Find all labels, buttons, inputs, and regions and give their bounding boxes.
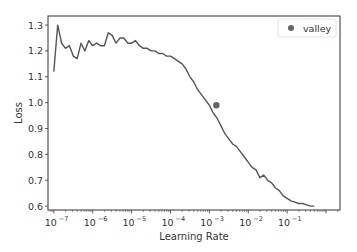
y-axis: 0.60.70.80.91.01.11.21.3	[28, 20, 48, 212]
valley-marker	[213, 102, 219, 108]
loss-curve	[54, 25, 315, 206]
x-tick-exponent: −2	[253, 215, 263, 223]
x-tick-exponent: −7	[59, 215, 69, 223]
x-tick-exponent: −6	[98, 215, 108, 223]
x-tick-label: 10	[123, 217, 135, 228]
y-tick-label: 0.7	[28, 175, 43, 186]
y-tick-label: 0.8	[28, 149, 43, 160]
legend-marker-icon	[288, 25, 294, 31]
x-tick-exponent: −1	[292, 215, 302, 223]
y-tick-label: 1.2	[28, 45, 43, 56]
x-tick-exponent: −3	[214, 215, 224, 223]
x-tick-label: 10	[239, 217, 251, 228]
y-tick-label: 0.6	[28, 201, 43, 212]
x-axis: 10−710−610−510−410−310−210−1	[45, 210, 338, 228]
x-tick-label: 10	[200, 217, 212, 228]
lr-finder-chart: 0.60.70.80.91.01.11.21.3 10−710−610−510−…	[0, 0, 357, 252]
legend: valley	[278, 19, 336, 37]
legend-label: valley	[303, 23, 332, 34]
y-tick-label: 1.1	[28, 71, 43, 82]
y-axis-label: Loss	[13, 102, 24, 124]
y-tick-label: 0.9	[28, 123, 43, 134]
y-tick-label: 1.3	[28, 20, 43, 31]
x-tick-exponent: −4	[175, 215, 185, 223]
y-tick-label: 1.0	[28, 97, 43, 108]
x-tick-label: 10	[161, 217, 173, 228]
x-tick-label: 10	[45, 217, 57, 228]
x-tick-label: 10	[84, 217, 96, 228]
x-tick-label: 10	[278, 217, 290, 228]
x-axis-label: Learning Rate	[159, 231, 229, 242]
x-tick-exponent: −5	[137, 215, 147, 223]
